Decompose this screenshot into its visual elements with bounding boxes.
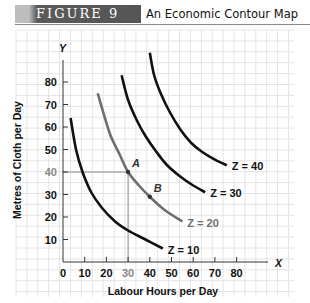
point-b xyxy=(148,195,152,199)
curve-label: Z = 10 xyxy=(168,244,200,256)
y-tick-label: 70 xyxy=(45,99,57,111)
x-tick-label: 80 xyxy=(230,267,242,279)
curve-label: Z = 30 xyxy=(210,187,242,199)
curve-label: Z = 40 xyxy=(232,160,264,172)
curve-z40 xyxy=(150,53,227,166)
point-label: B xyxy=(154,182,162,194)
y-axis-symbol: Y xyxy=(59,42,67,54)
y-tick-label: 20 xyxy=(45,211,57,223)
x-tick-label: 30 xyxy=(122,267,134,279)
y-axis-label: Metres of Cloth per Day xyxy=(11,101,23,219)
x-axis-symbol: X xyxy=(274,257,283,269)
point-label: A xyxy=(131,157,140,169)
point-a xyxy=(126,170,130,174)
x-tick-label: 50 xyxy=(165,267,177,279)
curve-z10 xyxy=(71,118,163,249)
x-tick-label: 70 xyxy=(209,267,221,279)
x-tick-label: 10 xyxy=(79,267,91,279)
curve-label: Z = 20 xyxy=(187,217,219,229)
y-tick-label: 40 xyxy=(45,166,57,178)
x-tick-label: 60 xyxy=(187,267,199,279)
y-tick-label: 30 xyxy=(45,189,57,201)
x-tick-label: 0 xyxy=(60,267,66,279)
contour-chart: 01020304050607080 1020304050607080 Z = 1… xyxy=(0,0,310,303)
y-tick-label: 80 xyxy=(45,76,57,88)
y-tick-label: 50 xyxy=(45,144,57,156)
x-tick-label: 40 xyxy=(144,267,156,279)
x-ticks: 01020304050607080 xyxy=(60,257,243,279)
x-axis-label: Labour Hours per Day xyxy=(108,285,218,297)
curve-z30 xyxy=(122,75,206,192)
y-tick-label: 60 xyxy=(45,121,57,133)
y-tick-label: 10 xyxy=(45,234,57,246)
x-tick-label: 20 xyxy=(100,267,112,279)
